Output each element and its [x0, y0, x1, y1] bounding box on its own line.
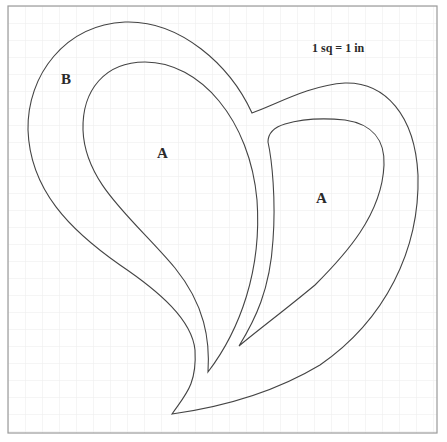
piece-label-a-left: A	[157, 146, 168, 161]
piece-label-a-right: A	[316, 191, 327, 206]
scale-note: 1 sq = 1 in	[312, 42, 364, 54]
grid-background	[8, 6, 437, 433]
pattern-diagram: B A A 1 sq = 1 in	[0, 0, 447, 442]
pattern-canvas	[0, 0, 447, 442]
piece-label-b: B	[61, 72, 71, 87]
